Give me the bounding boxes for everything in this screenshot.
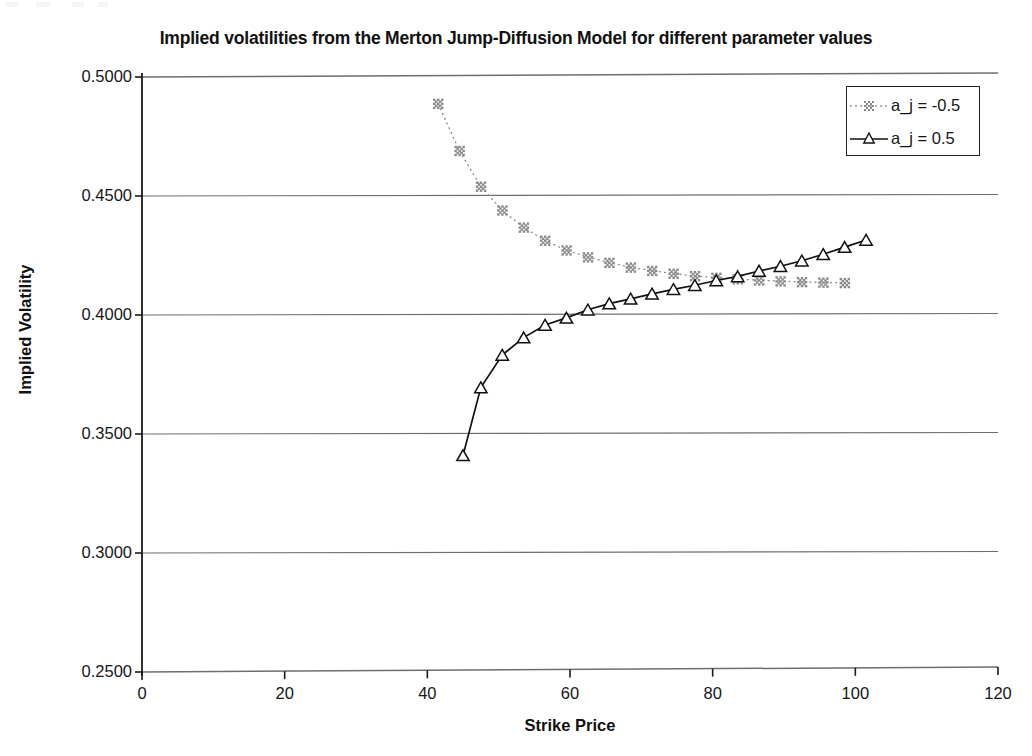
gridlines [142, 73, 998, 672]
chart-legend: a_j = -0.5 a_j = 0.5 [846, 86, 980, 156]
triangle-marker-icon [847, 125, 891, 153]
legend-label-0: a_j = -0.5 [891, 96, 960, 115]
series-positive [457, 234, 872, 460]
legend-entry-0[interactable]: a_j = -0.5 [847, 89, 981, 122]
asterisk-marker-icon [847, 92, 891, 120]
chart-figure: Implied volatilities from the Merton Jum… [0, 0, 1032, 756]
legend-label-1: a_j = 0.5 [891, 129, 955, 148]
series-negative [433, 99, 850, 289]
axes [135, 73, 998, 680]
legend-entry-1[interactable]: a_j = 0.5 [847, 122, 981, 155]
data-series-layer [433, 99, 872, 461]
